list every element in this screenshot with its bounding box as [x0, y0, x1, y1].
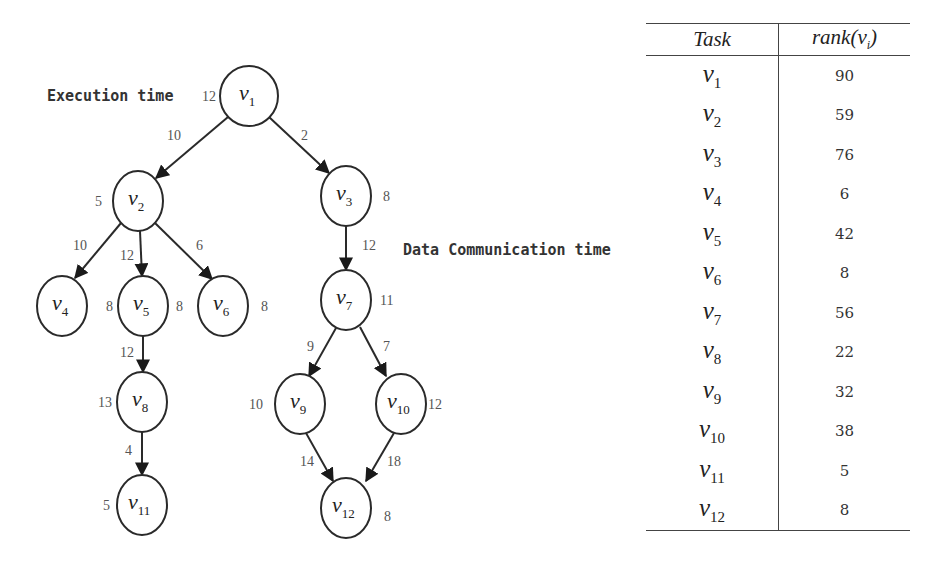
table-row: v128 — [646, 491, 910, 531]
exec-time-v2: 5 — [95, 194, 102, 209]
task-cell: v6 — [646, 254, 779, 294]
header-rank: rank(vi) — [779, 24, 911, 56]
legend-execution-time: Execution time — [47, 87, 173, 105]
table-body: v190v259v376v46v542v68v756v822v932v1038v… — [646, 56, 910, 531]
table-row: v376 — [646, 135, 910, 175]
node-v11: v115 — [103, 475, 167, 535]
node-v6: v68 — [198, 276, 268, 336]
comm-time-v3-v7: 12 — [362, 238, 376, 253]
task-cell: v11 — [646, 451, 779, 491]
exec-time-v9: 10 — [249, 397, 263, 412]
rank-cell: 5 — [779, 451, 911, 491]
table-row: v932 — [646, 372, 910, 412]
task-cell: v3 — [646, 135, 779, 175]
exec-time-v8: 13 — [98, 395, 112, 410]
node-v7: v711 — [321, 270, 393, 330]
comm-time-v7-v9: 9 — [307, 339, 314, 354]
comm-time-v2-v5: 12 — [120, 248, 134, 263]
node-v2: v25 — [95, 171, 163, 231]
node-v3: v38 — [321, 166, 390, 226]
table-row: v756 — [646, 293, 910, 333]
rank-cell: 8 — [779, 491, 911, 531]
comm-time-v10-v12: 18 — [387, 454, 401, 469]
rank-cell: 8 — [779, 254, 911, 294]
rank-cell: 38 — [779, 412, 911, 452]
rank-cell: 6 — [779, 175, 911, 215]
rank-cell: 76 — [779, 135, 911, 175]
edge-v2-v6 — [155, 223, 212, 279]
task-cell: v7 — [646, 293, 779, 333]
rank-cell: 59 — [779, 96, 911, 136]
exec-time-v6: 8 — [261, 299, 268, 314]
rank-cell: 32 — [779, 372, 911, 412]
node-v10: v1012 — [376, 374, 442, 434]
rank-cell: 90 — [779, 56, 911, 96]
comm-time-v9-v12: 14 — [300, 454, 314, 469]
edge-v1-v2 — [156, 117, 228, 178]
comm-time-v8-v11: 4 — [125, 443, 132, 458]
table-header-row: Task rank(vi) — [646, 24, 910, 56]
task-cell: v4 — [646, 175, 779, 215]
table-row: v46 — [646, 175, 910, 215]
table-row: v542 — [646, 214, 910, 254]
node-v9: v910 — [249, 374, 325, 434]
comm-time-v7-v10: 7 — [383, 339, 390, 354]
nodes: v112v25v38v48v5v68v711v813v910v1012v115v… — [37, 66, 442, 538]
task-cell: v8 — [646, 333, 779, 373]
comm-time-v5-v8: 12 — [120, 345, 134, 360]
table-row: v115 — [646, 451, 910, 491]
edge-v2-v5 — [140, 231, 142, 276]
task-cell: v12 — [646, 491, 779, 531]
node-v5: v5 — [118, 276, 168, 336]
node-v4: v48 — [37, 276, 113, 336]
node-v1: v112 — [202, 66, 278, 126]
task-cell: v9 — [646, 372, 779, 412]
exec-time-v11: 5 — [103, 498, 110, 513]
rank-cell: 56 — [779, 293, 911, 333]
task-cell: v2 — [646, 96, 779, 136]
task-cell: v5 — [646, 214, 779, 254]
legend-data-communication-time: Data Communication time — [403, 241, 611, 259]
task-cell: v1 — [646, 56, 779, 96]
comm-time-v1-v2: 10 — [167, 128, 181, 143]
exec-time-v5: 8 — [176, 299, 183, 314]
comm-time-v1-v3: 2 — [301, 128, 308, 143]
comm-time-v2-v6: 6 — [196, 238, 203, 253]
exec-time-v1: 12 — [202, 89, 216, 104]
exec-time-v12: 8 — [384, 509, 391, 524]
exec-time-v7: 11 — [380, 293, 393, 308]
header-task: Task — [646, 24, 779, 56]
rank-cell: 22 — [779, 333, 911, 373]
table-row: v259 — [646, 96, 910, 136]
exec-time-v4: 8 — [106, 299, 113, 314]
table-row: v822 — [646, 333, 910, 373]
exec-time-v10: 12 — [428, 397, 442, 412]
table-row: v1038 — [646, 412, 910, 452]
table-row: v190 — [646, 56, 910, 96]
comm-time-v2-v4: 10 — [73, 238, 87, 253]
node-v8: v813 — [98, 372, 167, 432]
rank-table: Task rank(vi) v190v259v376v46v542v68v756… — [646, 23, 910, 531]
task-cell: v10 — [646, 412, 779, 452]
node-v12: v128 — [321, 478, 391, 538]
exec-time-v3: 8 — [383, 189, 390, 204]
table-row: v68 — [646, 254, 910, 294]
rank-cell: 42 — [779, 214, 911, 254]
edge-v1-v3 — [269, 117, 329, 173]
